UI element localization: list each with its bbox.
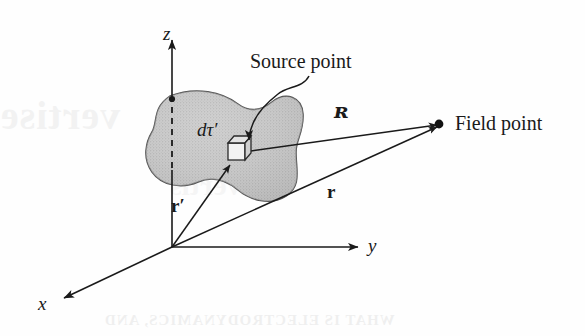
volume-element-label: dτ′ xyxy=(197,120,217,139)
source-position-vector-label: r′ xyxy=(171,196,185,215)
figure-canvas: vertise Advertis WHAT IS ELECTRODYNAMICS… xyxy=(0,0,585,336)
charge-volume-blob xyxy=(146,91,303,201)
field-position-vector-label: r xyxy=(327,182,335,201)
y-axis-label: y xyxy=(368,236,376,255)
volume-element-cube xyxy=(228,136,251,160)
source-point-label: Source point xyxy=(250,51,352,71)
x-axis-label: x xyxy=(38,294,46,313)
field-point-dot xyxy=(435,120,444,129)
z-axis-label: z xyxy=(163,24,170,43)
field-point-label: Field point xyxy=(455,113,542,133)
x-axis xyxy=(64,247,172,298)
separation-vector-label: ʀ xyxy=(334,100,349,121)
